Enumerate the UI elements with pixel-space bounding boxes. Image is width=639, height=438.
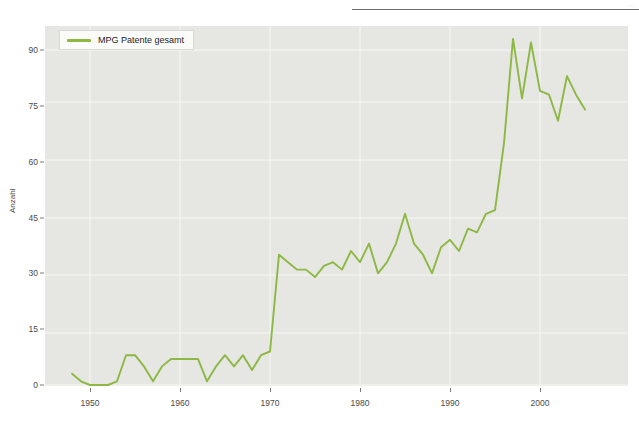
x-tick-label: 1980 [340,398,380,408]
legend-label: MPG Patente gesamt [98,35,184,45]
plot-area: MPG Patente gesamt [45,26,628,386]
x-tick-mark [360,388,361,392]
gridlines [45,26,628,386]
x-tick-label: 1960 [160,398,200,408]
y-tick-mark [40,329,44,330]
y-tick-label: 75 [12,101,38,111]
chart-legend: MPG Patente gesamt [59,30,194,50]
y-tick-mark [40,273,44,274]
x-tick-label: 1970 [250,398,290,408]
y-tick-label: 0 [12,380,38,390]
header-faint-text: ... [420,0,635,8]
line-swatch-icon [67,39,91,42]
x-tick-mark [90,388,91,392]
x-tick-label: 1990 [430,398,470,408]
x-tick-mark [450,388,451,392]
header-rule [352,9,639,10]
y-tick-mark [40,385,44,386]
chart-page: ... MPG P [0,0,639,438]
y-tick-label: 90 [12,45,38,55]
y-axis-label: Anzahl [8,189,17,213]
y-tick-mark [40,217,44,218]
y-tick-label: 45 [12,213,38,223]
y-tick-label: 30 [12,268,38,278]
y-tick-mark [40,161,44,162]
chart-svg [45,26,628,386]
x-tick-mark [180,388,181,392]
x-tick-label: 1950 [70,398,110,408]
x-tick-mark [270,388,271,392]
y-tick-label: 60 [12,157,38,167]
x-tick-mark [540,388,541,392]
y-tick-mark [40,105,44,106]
y-tick-mark [40,50,44,51]
y-tick-label: 15 [12,324,38,334]
x-tick-label: 2000 [520,398,560,408]
